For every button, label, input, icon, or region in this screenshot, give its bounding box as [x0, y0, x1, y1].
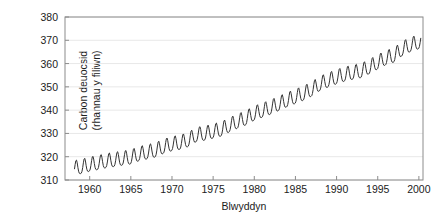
- x-tick-label: 1970: [160, 184, 183, 195]
- x-tick-label: 1985: [284, 184, 307, 195]
- x-tick-label: 1965: [119, 184, 142, 195]
- x-tick-label: 2000: [407, 184, 430, 195]
- x-tick-label: 1975: [201, 184, 224, 195]
- x-tick-label: 1960: [78, 184, 101, 195]
- x-tick-label: 1990: [325, 184, 348, 195]
- x-tick-label: 1980: [243, 184, 266, 195]
- x-tick-label: 1995: [366, 184, 389, 195]
- co2-data-line: [74, 36, 420, 174]
- chart-figure: Carbon deuocsid (rhannau y filiwn) 31032…: [0, 0, 439, 223]
